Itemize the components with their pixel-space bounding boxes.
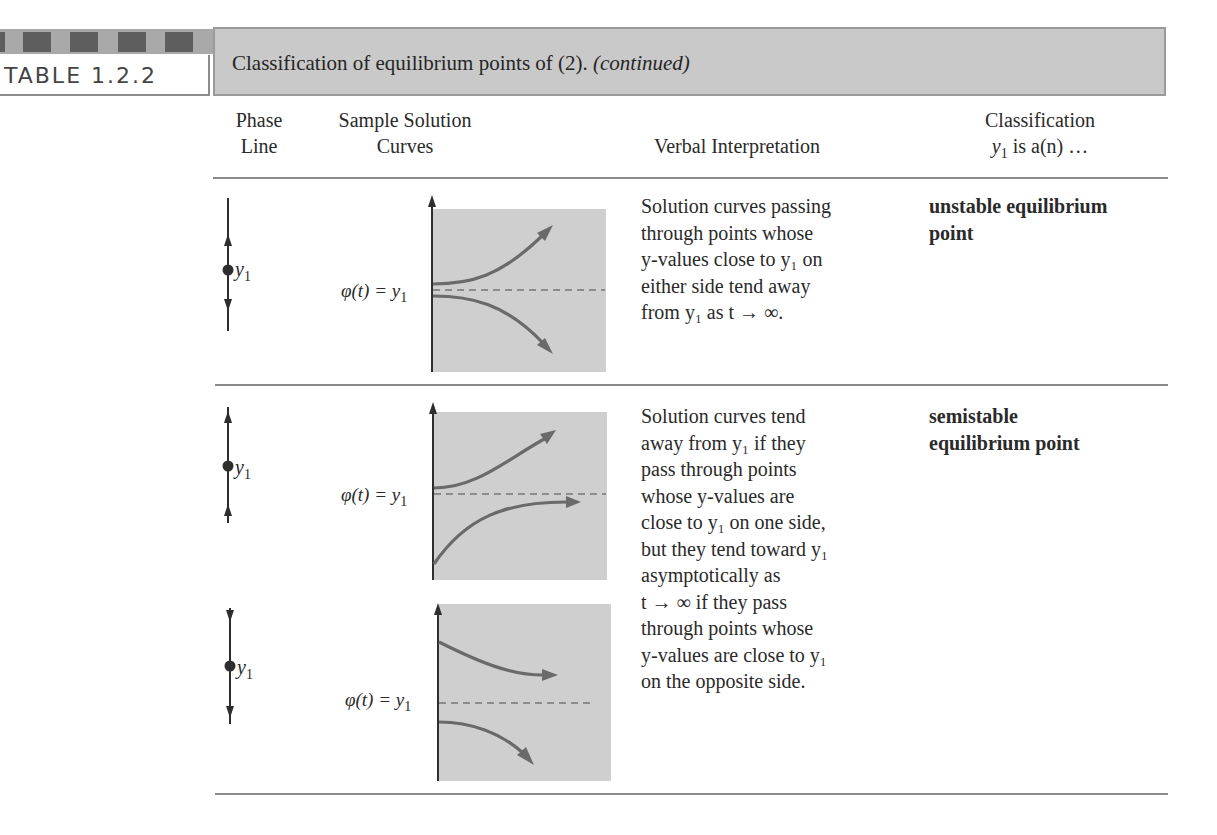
strip-square: [0, 32, 5, 52]
header-suffix: is a(n) …: [1008, 135, 1089, 157]
y-symbol: y: [235, 258, 244, 280]
header-line-2: Curves: [330, 133, 480, 159]
text-line: pass through points: [641, 456, 828, 483]
y1-label: y1: [235, 258, 251, 285]
subscript: 1: [400, 494, 407, 509]
classification-unstable: unstable equilibrium point: [929, 193, 1107, 246]
subscript: 1: [244, 467, 251, 482]
caption-suffix: (continued): [593, 51, 690, 75]
header-sample-curves: Sample Solution Curves: [330, 107, 480, 159]
phi-equation: φ(t) = y: [341, 484, 400, 505]
subscript: 1: [400, 290, 407, 305]
strip-square: [118, 32, 146, 52]
y-symbol: y: [237, 656, 246, 678]
text-line: y-values are close to y₁: [641, 642, 828, 669]
text-line: asymptotically as: [641, 562, 828, 589]
verbal-interpretation-unstable: Solution curves passing through points w…: [641, 193, 831, 326]
text-line: Solution curves tend: [641, 403, 828, 430]
header-verbal-interpretation: Verbal Interpretation: [654, 133, 820, 159]
subscript: 1: [244, 269, 251, 284]
phi-label: φ(t) = y1: [341, 484, 407, 510]
text-line: on the opposite side.: [641, 668, 828, 695]
text-line: Solution curves passing: [641, 193, 831, 220]
phi-equation: φ(t) = y: [345, 689, 404, 710]
phi-label: φ(t) = y1: [345, 689, 411, 715]
header-line-1: Phase: [224, 107, 294, 133]
header-classification: Classification y1 is a(n) …: [965, 107, 1115, 167]
subscript: 1: [404, 699, 411, 714]
text-line: either side tend away: [641, 273, 831, 300]
solution-curves-semistable-b: [431, 603, 621, 785]
text-line: unstable equilibrium: [929, 193, 1107, 220]
text-line: through points whose: [641, 615, 828, 642]
header-phase-line: Phase Line: [224, 107, 294, 159]
phi-label: φ(t) = y1: [341, 280, 407, 306]
text-line: from y₁ as t → ∞.: [641, 299, 831, 326]
table-label: TABLE 1.2.2: [0, 55, 210, 96]
header-line-2: Line: [224, 133, 294, 159]
strip-square: [165, 32, 193, 52]
verbal-interpretation-semistable: Solution curves tend away from y₁ if the…: [641, 403, 828, 695]
caption-bar: Classification of equilibrium points of …: [213, 27, 1166, 96]
y1-label: y1: [235, 456, 251, 483]
text-line: whose y-values are: [641, 483, 828, 510]
text-line: but they tend toward y₁: [641, 536, 828, 563]
text-line: point: [929, 220, 1107, 247]
text-line: through points whose: [641, 220, 831, 247]
strip-square: [70, 32, 98, 52]
y-symbol: y: [235, 456, 244, 478]
solution-curves-unstable: [425, 195, 615, 380]
decorative-strip: [0, 29, 213, 54]
phi-equation: φ(t) = y: [341, 280, 400, 301]
classification-semistable: semistable equilibrium point: [929, 403, 1080, 456]
text-line: close to y₁ on one side,: [641, 509, 828, 536]
text-line: y-values close to y₁ on: [641, 246, 831, 273]
text-line: semistable: [929, 403, 1080, 430]
y1-label: y1: [237, 656, 253, 683]
text-line: t → ∞ if they pass: [641, 589, 828, 616]
header-rule: [213, 177, 1168, 179]
header-line-1: Sample Solution: [330, 107, 480, 133]
bottom-rule: [215, 793, 1168, 795]
subscript: 1: [1001, 146, 1008, 161]
row-separator: [215, 384, 1168, 386]
header-line-2: y1 is a(n) …: [965, 133, 1115, 167]
solution-curves-semistable-a: [426, 402, 616, 584]
header-line-1: Classification: [965, 107, 1115, 133]
subscript: 1: [246, 667, 253, 682]
text-line: equilibrium point: [929, 430, 1080, 457]
text-line: away from y₁ if they: [641, 430, 828, 457]
table-caption: Classification of equilibrium points of …: [232, 51, 690, 76]
caption-main: Classification of equilibrium points of …: [232, 51, 588, 75]
y-symbol: y: [992, 135, 1001, 157]
strip-square: [23, 32, 51, 52]
